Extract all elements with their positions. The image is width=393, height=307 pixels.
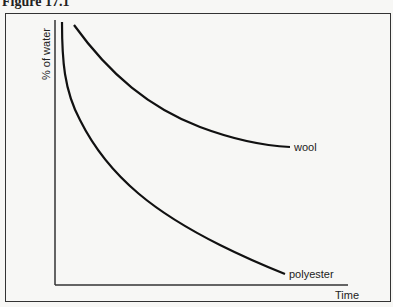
wool-curve	[74, 25, 290, 147]
wool-label: wool	[293, 141, 317, 153]
y-axis-label: % of water	[40, 28, 52, 80]
polyester-curve	[62, 22, 285, 274]
polyester-label: polyester	[289, 268, 334, 280]
chart-plot: wool polyester Time % of water	[0, 0, 393, 307]
x-axis-label: Time	[335, 289, 359, 301]
